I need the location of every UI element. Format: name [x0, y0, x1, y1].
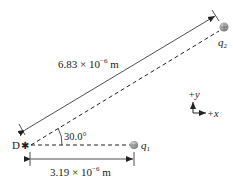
horizontal-dimension-arrow [30, 152, 134, 166]
diagonal-dimension-arrow [19, 10, 219, 135]
x-axis-label: +x [207, 108, 219, 119]
angle-label: 30.0° [64, 131, 87, 142]
angle-arc [58, 128, 62, 145]
horizontal-distance-label: 3.19 × 10−6 m [50, 165, 111, 178]
axes-indicator [193, 102, 206, 113]
q2-label: q2 [218, 36, 228, 50]
charge-q1 [130, 141, 138, 149]
point-d-marker-icon: ✱ [21, 140, 29, 151]
charge-q2 [220, 23, 229, 32]
diagonal-distance-label: 6.83 × 10−6 m [58, 57, 119, 70]
charge-diagram: D ✱ q1 q2 6.83 × 10−6 m 30.0° 3.19 × 10−… [0, 0, 233, 182]
q1-label: q1 [141, 139, 151, 153]
dashed-line-to-q2 [31, 31, 219, 145]
y-axis-label: +y [188, 89, 200, 100]
point-d-label: D [12, 139, 20, 151]
